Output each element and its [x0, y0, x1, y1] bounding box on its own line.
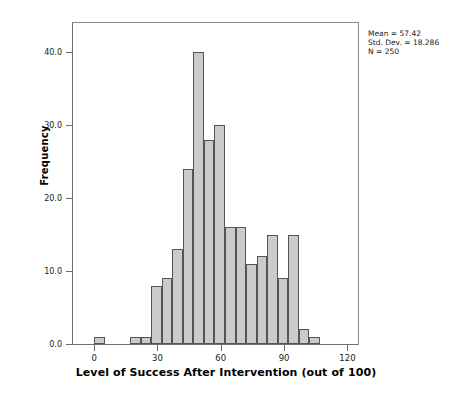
- y-axis-tick: [66, 344, 73, 345]
- x-axis-tick: [284, 345, 285, 351]
- x-axis-tick: [157, 345, 158, 351]
- y-axis-tick: [66, 52, 73, 53]
- stat-mean: Mean = 57.42: [368, 29, 450, 38]
- stat-n: N = 250: [368, 47, 450, 56]
- y-axis-tick-label: 0.0: [22, 340, 62, 349]
- y-axis-ticks: 0.010.020.030.040.0: [0, 0, 451, 398]
- statistics-annotation: Mean = 57.42 Std. Dev. = 18.286 N = 250: [368, 29, 450, 56]
- y-axis-tick: [66, 125, 73, 126]
- y-axis-tick-label: 40.0: [22, 48, 62, 57]
- y-axis-title: Frequency: [39, 96, 50, 216]
- x-axis-title: Level of Success After Intervention (out…: [36, 366, 416, 379]
- x-axis-tick-label: 120: [327, 353, 367, 363]
- x-axis-tick-label: 30: [137, 353, 177, 363]
- x-axis-tick-label: 60: [201, 353, 241, 363]
- y-axis-tick: [66, 198, 73, 199]
- y-axis-tick: [66, 271, 73, 272]
- x-axis-tick-label: 0: [74, 353, 114, 363]
- stat-stddev: Std. Dev. = 18.286: [368, 38, 450, 47]
- x-axis-tick: [94, 345, 95, 351]
- x-axis-tick: [347, 345, 348, 351]
- x-axis-tick-label: 90: [264, 353, 304, 363]
- histogram-figure: 0.010.020.030.040.0 0306090120 Frequency…: [0, 0, 451, 398]
- x-axis-tick: [221, 345, 222, 351]
- y-axis-tick-label: 10.0: [22, 267, 62, 276]
